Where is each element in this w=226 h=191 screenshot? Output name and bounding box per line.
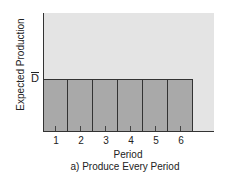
bar-period-4 [118,79,143,131]
x-axis-label: Period [108,149,148,160]
x-axis [43,131,214,132]
y-axis [43,13,44,131]
x-tick-label: 1 [46,135,66,146]
chart-caption: a) Produce Every Period [60,161,190,172]
x-tick-label: 4 [121,135,141,146]
bar-period-5 [143,79,168,131]
bar-period-2 [68,79,93,131]
x-tick-label: 6 [171,135,191,146]
y-reference-label: D [31,72,39,84]
x-tick-label: 2 [71,135,91,146]
x-tick-label: 5 [146,135,166,146]
bar-period-1 [43,79,68,131]
x-tick-label: 3 [96,135,116,146]
y-axis-label: Expected Production [15,15,26,115]
bar-period-3 [93,79,118,131]
bar-period-6 [168,79,193,131]
